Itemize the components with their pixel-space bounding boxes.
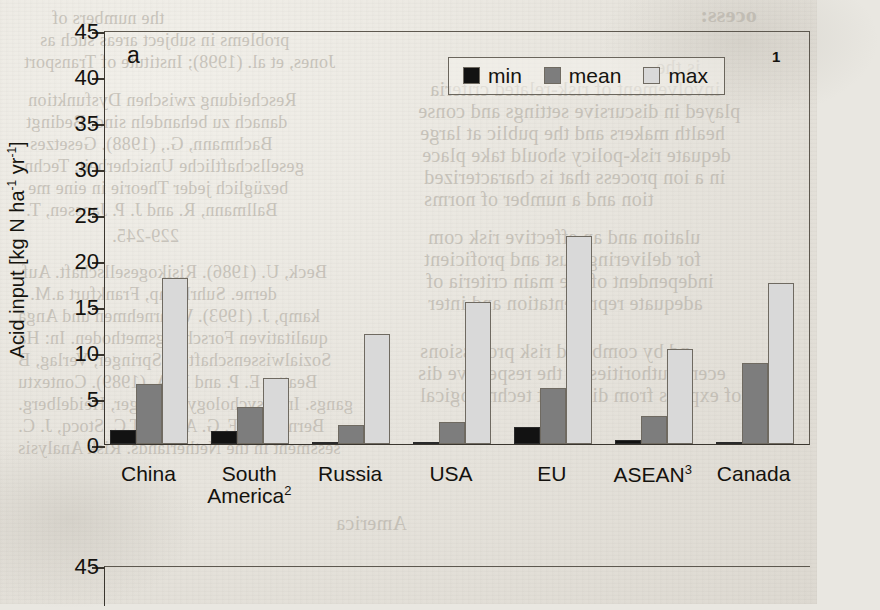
bar-max bbox=[263, 378, 289, 444]
bar-min bbox=[615, 440, 641, 444]
bar-max bbox=[566, 236, 592, 444]
bar-mean bbox=[641, 416, 667, 444]
x-label-superscript: 2 bbox=[284, 483, 291, 498]
bar-min bbox=[514, 427, 540, 444]
x-label-line-2: America2 bbox=[169, 484, 329, 506]
y-axis-title-end: ] bbox=[6, 141, 28, 147]
bar-max bbox=[667, 349, 693, 444]
y-axis-tick-label: 0 bbox=[87, 433, 99, 459]
y-axis-tick-label: 45 bbox=[75, 19, 99, 45]
plot-area: a 051015202530354045 minmeanmax 1 bbox=[104, 31, 810, 445]
bar-mean bbox=[439, 422, 465, 444]
bar-mean bbox=[237, 407, 263, 444]
legend-swatch-mean bbox=[544, 67, 561, 84]
bar-max bbox=[465, 302, 491, 444]
bar-min bbox=[110, 430, 136, 444]
legend-swatch-max bbox=[643, 67, 660, 84]
x-label-line-1: Canada bbox=[674, 463, 834, 484]
y-axis-tick-label: 15 bbox=[75, 295, 99, 321]
legend-label-max: max bbox=[668, 65, 708, 86]
bar-group bbox=[206, 32, 307, 444]
bar-mean bbox=[540, 388, 566, 444]
legend-item-min: min bbox=[463, 65, 522, 86]
y-axis-title-sup-2: -1 bbox=[5, 147, 19, 158]
figure-panel-b-partial: 45 bbox=[104, 566, 810, 606]
legend-superscript: 1 bbox=[772, 48, 780, 65]
legend-item-max: max bbox=[643, 65, 708, 86]
y-axis-tick-label: 10 bbox=[75, 341, 99, 367]
bar-min bbox=[312, 442, 338, 444]
bar-max bbox=[768, 283, 794, 444]
y-axis-tick-label: 20 bbox=[75, 249, 99, 275]
x-axis-label-canada: Canada bbox=[674, 463, 834, 484]
bar-min bbox=[413, 442, 439, 444]
legend-swatch-min bbox=[463, 67, 480, 84]
bar-min bbox=[211, 431, 237, 444]
bar-mean bbox=[338, 425, 364, 444]
bar-group bbox=[307, 32, 408, 444]
y-axis-title: Acid input [kg N ha-1 yr-1] bbox=[5, 85, 29, 415]
y-axis-title-sup-1: -1 bbox=[5, 180, 19, 191]
bar-mean bbox=[742, 363, 768, 444]
y-axis-title-mid: yr bbox=[6, 158, 28, 180]
legend-label-min: min bbox=[488, 65, 522, 86]
y-axis-tick-label: 25 bbox=[75, 203, 99, 229]
y-axis-tick-label: 30 bbox=[75, 157, 99, 183]
y-axis-tick-label: 5 bbox=[87, 387, 99, 413]
bar-max bbox=[162, 278, 188, 444]
bar-group bbox=[105, 32, 206, 444]
bar-mean bbox=[136, 384, 162, 444]
y-axis-tick-label: 40 bbox=[75, 65, 99, 91]
bar-max bbox=[364, 334, 390, 444]
legend-label-mean: mean bbox=[569, 65, 622, 86]
y-axis-tick-label: 35 bbox=[75, 111, 99, 137]
bar-group bbox=[710, 32, 811, 444]
panel-b-tick-label-45: 45 bbox=[75, 554, 99, 580]
legend-item-mean: mean bbox=[544, 65, 622, 86]
bar-min bbox=[716, 442, 742, 444]
y-axis-title-main: Acid input [kg N ha bbox=[6, 190, 28, 358]
chart-legend: minmeanmax bbox=[448, 57, 725, 95]
